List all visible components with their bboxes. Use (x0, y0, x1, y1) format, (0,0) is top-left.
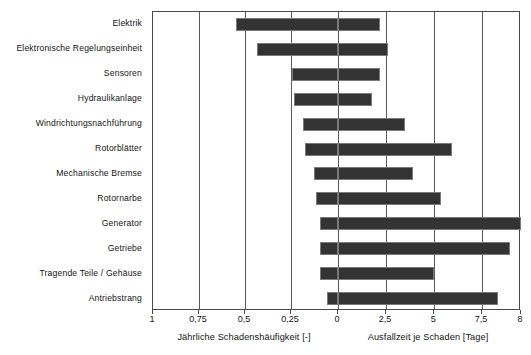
bar-frequency (305, 143, 338, 156)
category-label: Windrichtungsnachführung (0, 118, 142, 128)
x-axis-title-frequency: Jährliche Schadenshäufigkeit [-] (177, 332, 310, 343)
bar-downtime (338, 292, 498, 305)
bar-frequency (320, 217, 339, 230)
gridline (338, 12, 339, 309)
category-label: Generator (0, 218, 142, 228)
category-label: Antriebstrang (0, 293, 142, 303)
bar-frequency (257, 43, 338, 56)
x-axis-tick-label: 7,5 (475, 314, 488, 325)
bar-frequency (314, 167, 338, 180)
x-axis-tick-label: 0,75 (189, 314, 207, 325)
bar-frequency (294, 93, 338, 106)
bar-downtime (338, 192, 441, 205)
bar-downtime (338, 167, 413, 180)
x-axis-title-downtime: Ausfallzeit je Schaden [Tage] (368, 332, 489, 343)
category-label-column: ElektrikElektronische RegelungseinheitSe… (0, 11, 148, 310)
bar-frequency (327, 292, 338, 305)
bar-frequency (316, 192, 338, 205)
gridline (291, 12, 292, 309)
bar-downtime (338, 93, 372, 106)
bar-frequency (236, 18, 338, 31)
x-axis-tick-label: 0,25 (281, 314, 299, 325)
bar-downtime (338, 242, 510, 255)
bar-downtime (338, 267, 434, 280)
category-label: Sensoren (0, 68, 142, 78)
gridline (482, 12, 483, 309)
bar-downtime (338, 18, 380, 31)
x-axis-tick-label: 5 (431, 314, 436, 325)
bar-downtime (338, 217, 521, 230)
category-label: Elektrik (0, 18, 142, 28)
x-axis-tick-label: 8 (517, 314, 522, 325)
bar-downtime (338, 143, 452, 156)
category-label: Elektronische Regelungseinheit (0, 43, 142, 53)
x-axis-tick-label: 2,5 (379, 314, 392, 325)
x-axis-tick-label: 0,5 (238, 314, 251, 325)
bar-frequency (292, 68, 338, 81)
gridline (199, 12, 200, 309)
plot-area (152, 11, 520, 310)
category-label: Getriebe (0, 243, 142, 253)
category-label: Mechanische Bremse (0, 168, 142, 178)
x-axis-tick-layer: 10,750,50,2502,557,58 (152, 310, 520, 326)
gridline (434, 12, 435, 309)
bar-downtime (338, 43, 388, 56)
gridline (245, 12, 246, 309)
x-axis-tick-label: 0 (335, 314, 340, 325)
bar-frequency (320, 242, 339, 255)
category-label: Rotorblätter (0, 143, 142, 153)
category-label: Rotornarbe (0, 193, 142, 203)
gridline (386, 12, 387, 309)
bar-frequency (320, 267, 339, 280)
category-label: Tragende Teile / Gehäuse (0, 268, 142, 278)
bar-frequency (303, 118, 338, 131)
category-label: Hydraulikanlage (0, 93, 142, 103)
chart-figure: ElektrikElektronische RegelungseinheitSe… (0, 0, 531, 355)
bar-downtime (338, 68, 380, 81)
bar-downtime (338, 118, 405, 131)
x-axis-tick-label: 1 (149, 314, 154, 325)
